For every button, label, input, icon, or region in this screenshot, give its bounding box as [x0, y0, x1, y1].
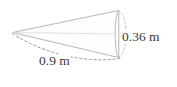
cone-length-label: 0.9 m — [38, 54, 71, 68]
cone-diagram-figure: 0.36 m 0.9 m — [0, 0, 177, 87]
base-diameter-label: 0.36 m — [121, 30, 161, 44]
